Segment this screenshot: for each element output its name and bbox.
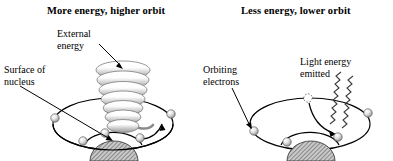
leader-orbiting-electrons-arrowhead <box>246 122 252 129</box>
leader-external-energy-arrowhead <box>116 63 123 70</box>
external-energy-helix <box>96 61 153 133</box>
vacated-electron-position <box>304 94 312 102</box>
inner-orbit-right <box>281 132 339 145</box>
electron-jump-arrowhead-left <box>160 124 166 131</box>
electron-drop-arrowhead-right <box>329 131 336 138</box>
label-orbiting-electrons-line2: electrons <box>203 76 239 88</box>
label-surface-of-nucleus: Surface of nucleus <box>4 64 45 87</box>
photon-wave <box>330 72 341 124</box>
panel-title-left: More energy, higher orbit <box>47 5 165 16</box>
leader-surface-of-nucleus <box>20 86 110 139</box>
inner-orbit-left <box>84 132 142 145</box>
electron <box>167 110 175 118</box>
outer-orbit-right <box>250 98 370 150</box>
label-surface-of-nucleus-line1: Surface of <box>4 64 45 76</box>
electron <box>334 133 342 141</box>
electron-drop-arrow-right <box>309 103 333 133</box>
panel-title-right: Less energy, lower orbit <box>241 5 351 16</box>
electron <box>250 127 258 135</box>
electron <box>136 134 144 142</box>
electron <box>283 138 291 146</box>
outer-orbit-left <box>53 98 173 150</box>
electron <box>79 137 87 145</box>
electron <box>364 109 372 117</box>
leader-external-energy <box>99 44 121 66</box>
label-light-energy-emitted-line1: Light energy <box>300 56 351 68</box>
label-external-energy-line1: External <box>57 28 91 40</box>
leader-orbiting-electrons <box>232 88 250 126</box>
label-orbiting-electrons-line1: Orbiting <box>203 64 239 76</box>
diagram-artwork <box>0 0 393 161</box>
label-surface-of-nucleus-line2: nucleus <box>4 76 45 88</box>
figure-canvas: More energy, higher orbit Less energy, l… <box>0 0 393 161</box>
label-external-energy-line2: energy <box>57 40 91 52</box>
electron <box>51 114 59 122</box>
electron <box>101 129 109 137</box>
right-panel-art <box>232 72 372 161</box>
label-external-energy: External energy <box>57 28 91 51</box>
nucleus-left <box>90 141 138 161</box>
label-light-energy-emitted: Light energy emitted <box>300 56 351 79</box>
label-orbiting-electrons: Orbiting electrons <box>203 64 239 87</box>
nucleus-right <box>287 141 335 161</box>
electron-jump-arrow-left <box>143 124 162 139</box>
left-panel-art <box>20 44 175 161</box>
photon-wave <box>342 76 353 128</box>
label-light-energy-emitted-line2: emitted <box>300 68 351 80</box>
photon-wave-group <box>330 72 353 128</box>
outer-orbit-left-front <box>53 124 173 150</box>
leader-surface-of-nucleus-arrowhead <box>106 135 114 141</box>
